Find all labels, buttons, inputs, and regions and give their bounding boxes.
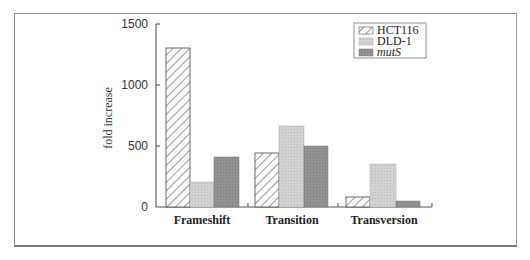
bar-chart: 0 500 1000 1500 fold increase Frameshift…	[0, 0, 530, 260]
category-label-transition: Transition	[265, 213, 318, 227]
y-axis-label: fold increase	[101, 87, 115, 149]
legend-label-muts: mutS	[377, 45, 401, 59]
bar-group-frameshift: Frameshift	[166, 48, 239, 227]
bar-transversion-dld1	[370, 164, 396, 207]
legend: HCT116 DLD-1 mutS	[354, 23, 426, 59]
y-tick-0: 0	[141, 200, 148, 214]
bar-frameshift-hct116	[166, 48, 190, 207]
bar-frameshift-dld1	[190, 182, 214, 207]
y-tick-1500: 1500	[121, 17, 148, 31]
bar-transversion-muts	[396, 201, 420, 207]
legend-swatch-muts	[359, 49, 373, 56]
bar-transition-hct116	[255, 153, 279, 207]
y-tick-500: 500	[128, 139, 148, 153]
y-axis: 0 500 1000 1500 fold increase	[101, 17, 160, 214]
bar-transversion-hct116	[346, 197, 370, 207]
bar-group-transition: Transition	[255, 126, 328, 227]
bar-transition-muts	[304, 146, 328, 207]
category-label-transversion: Transversion	[350, 213, 417, 227]
y-tick-1000: 1000	[121, 78, 148, 92]
category-label-frameshift: Frameshift	[174, 213, 231, 227]
legend-swatch-hct116	[359, 27, 373, 34]
bar-group-transversion: Transversion	[346, 164, 420, 227]
bar-transition-dld1	[279, 126, 304, 207]
legend-swatch-dld1	[359, 38, 373, 45]
bar-frameshift-muts	[214, 157, 239, 207]
